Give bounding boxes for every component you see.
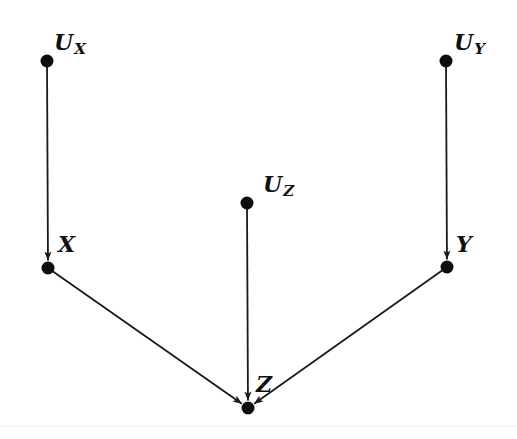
labels-group: UXUYUZXYZ <box>54 29 486 397</box>
edge-y-to-z <box>254 267 447 404</box>
node-z <box>242 402 255 415</box>
edge-uy-to-y <box>446 61 447 260</box>
label-ux: UX <box>54 29 87 58</box>
edge-ux-to-x <box>47 61 48 261</box>
label-x: X <box>56 231 76 257</box>
edges-group <box>47 61 447 404</box>
edge-uz-to-z <box>247 203 248 401</box>
node-y <box>441 261 454 274</box>
label-uz: UZ <box>263 171 295 200</box>
node-uz <box>241 197 254 210</box>
node-ux <box>41 55 54 68</box>
node-uy <box>440 55 453 68</box>
causal-diagram: UXUYUZXYZ <box>0 0 517 439</box>
label-y: Y <box>456 231 474 257</box>
edge-x-to-z <box>48 268 242 404</box>
label-z: Z <box>255 371 273 397</box>
node-x <box>42 262 55 275</box>
label-uy: UY <box>454 29 486 58</box>
